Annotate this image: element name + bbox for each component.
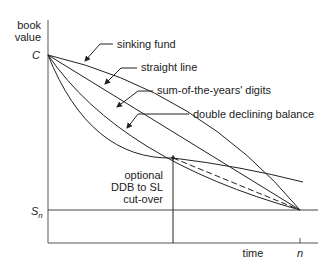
leader-sinking-fund [85, 44, 113, 61]
salvage-subscript: n [38, 211, 43, 220]
label-ddb: double declining balance [193, 108, 314, 120]
label-syd: sum-of-the-years' digits [157, 84, 271, 96]
y-axis-label-line1: book [17, 19, 41, 31]
x-axis-label: time [243, 247, 264, 259]
leader-syd [117, 91, 153, 107]
y-axis-label-line2: value [15, 31, 41, 43]
salvage-label: Sn [31, 205, 43, 220]
leader-straight-line [105, 68, 137, 84]
cutover-dashed-line [173, 158, 300, 210]
depreciation-diagram: book value C sinking fund straight line … [0, 0, 334, 271]
cutover-label-line3: cut-over [123, 193, 163, 205]
initial-cost-label: C [32, 49, 40, 61]
curve-straight-line [48, 55, 300, 210]
cutover-label-line1: optional [124, 169, 163, 181]
cutover-label-line2: DDB to SL [111, 181, 163, 193]
end-label: n [297, 247, 303, 259]
label-straight-line: straight line [141, 61, 197, 73]
label-sinking-fund: sinking fund [117, 38, 176, 50]
leader-ddb [127, 114, 189, 128]
